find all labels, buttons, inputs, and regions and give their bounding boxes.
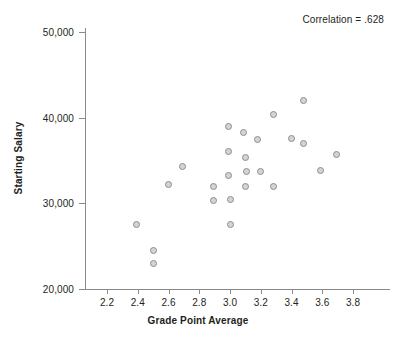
data-point	[179, 163, 186, 170]
y-axis-title: Starting Salary	[13, 122, 24, 195]
x-tick-label: 3.2	[254, 297, 268, 308]
y-tick-label: 40,000	[43, 112, 74, 123]
data-point	[133, 221, 140, 228]
x-tick-mark	[230, 289, 231, 294]
x-tick-mark	[169, 289, 170, 294]
x-tick-label: 2.4	[131, 297, 145, 308]
data-point	[333, 151, 340, 158]
x-tick-mark	[353, 289, 354, 294]
data-point	[210, 183, 217, 190]
data-point	[210, 197, 217, 204]
data-point	[225, 123, 232, 130]
data-point	[225, 148, 232, 155]
y-tick-label: 30,000	[43, 198, 74, 209]
x-tick-mark	[138, 289, 139, 294]
data-point	[300, 140, 307, 147]
data-point	[254, 136, 261, 143]
x-tick-mark	[261, 289, 262, 294]
data-point	[150, 247, 157, 254]
data-point	[227, 196, 234, 203]
data-point	[257, 168, 264, 175]
x-tick-mark	[322, 289, 323, 294]
correlation-annotation: Correlation = .628	[302, 14, 384, 25]
x-tick-mark	[107, 289, 108, 294]
x-tick-label: 3.6	[315, 297, 329, 308]
x-tick-label: 3.4	[284, 297, 298, 308]
y-tick-label: 20,000	[43, 284, 74, 295]
x-tick-mark	[199, 289, 200, 294]
x-axis-title: Grade Point Average	[0, 315, 396, 326]
data-point	[242, 154, 249, 161]
y-axis-line	[85, 28, 86, 290]
data-point	[165, 181, 172, 188]
data-point	[300, 97, 307, 104]
scatter-plot: Correlation = .628 20,00030,00040,00050,…	[0, 0, 396, 341]
x-tick-label: 2.8	[192, 297, 206, 308]
x-tick-mark	[292, 289, 293, 294]
data-point	[243, 168, 250, 175]
data-point	[288, 135, 295, 142]
y-tick-mark	[79, 289, 85, 290]
x-tick-label: 3.8	[346, 297, 360, 308]
data-point	[242, 183, 249, 190]
x-tick-label: 3.0	[223, 297, 237, 308]
y-tick-mark	[79, 118, 85, 119]
y-tick-label: 50,000	[43, 27, 74, 38]
data-point	[270, 183, 277, 190]
x-axis-line	[85, 289, 390, 290]
y-tick-mark	[79, 32, 85, 33]
data-point	[240, 129, 247, 136]
data-point	[227, 221, 234, 228]
x-tick-label: 2.6	[161, 297, 175, 308]
data-point	[317, 167, 324, 174]
data-point	[270, 111, 277, 118]
y-tick-mark	[79, 203, 85, 204]
data-point	[150, 260, 157, 267]
data-point	[225, 172, 232, 179]
x-tick-label: 2.2	[100, 297, 114, 308]
